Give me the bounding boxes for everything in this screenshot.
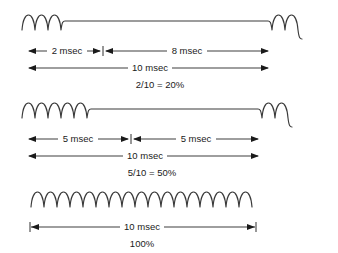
label-10-msec-row3: 10 msec [124,221,160,232]
figure-background [0,0,338,253]
duty-cycle-diagram: 2 msec 8 msec 10 msec 2/10 = 20% [0,0,338,253]
label-10-msec-row2: 10 msec [127,150,163,161]
duty-label-20-percent: 2/10 = 20% [136,79,185,90]
label-2-msec: 2 msec [52,45,83,56]
label-5-msec-right: 5 msec [181,133,212,144]
duty-label-100-percent: 100% [130,238,155,249]
duty-label-50-percent: 5/10 = 50% [128,167,177,178]
label-8-msec: 8 msec [172,45,203,56]
label-10-msec-row1: 10 msec [132,62,168,73]
label-5-msec-left: 5 msec [63,133,94,144]
